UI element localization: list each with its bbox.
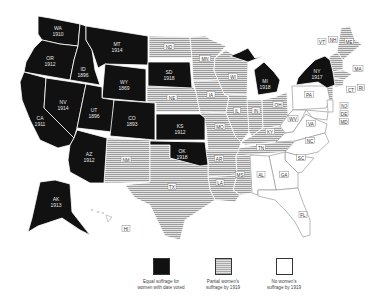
legend-swatch-white bbox=[276, 258, 293, 275]
label-md: MD bbox=[340, 119, 349, 125]
svg-text:ME: ME bbox=[346, 40, 353, 45]
svg-text:IN: IN bbox=[254, 109, 259, 114]
label-de: DE bbox=[340, 111, 348, 117]
label-ok-year: 1918 bbox=[176, 154, 187, 160]
legend-swatch-hatched bbox=[215, 258, 232, 275]
svg-text:SC: SC bbox=[298, 156, 305, 161]
state-pa[interactable] bbox=[292, 86, 330, 110]
svg-text:NE: NE bbox=[169, 96, 175, 101]
label-ky: KY bbox=[266, 129, 275, 135]
svg-text:AR: AR bbox=[216, 157, 223, 162]
label-ms: MS bbox=[236, 172, 245, 178]
label-nh: NH bbox=[329, 37, 338, 43]
label-pa: PA bbox=[305, 92, 314, 98]
label-ny-year: 1917 bbox=[311, 74, 322, 80]
label-tn: TN bbox=[257, 145, 266, 151]
state-ar[interactable] bbox=[204, 150, 239, 177]
map-legend: Equal suffrage for women with date voted… bbox=[0, 258, 382, 298]
label-al: AL bbox=[257, 172, 265, 178]
label-mn: MN bbox=[200, 56, 211, 62]
label-ma: MA bbox=[353, 66, 363, 72]
label-fl: FL bbox=[299, 212, 307, 218]
svg-text:NC: NC bbox=[307, 139, 314, 144]
label-wi: WI bbox=[229, 74, 238, 80]
svg-text:TX: TX bbox=[169, 185, 175, 190]
label-or-year: 1912 bbox=[44, 61, 55, 67]
label-ak-year: 1913 bbox=[50, 202, 61, 208]
svg-text:DE: DE bbox=[341, 112, 347, 117]
label-ct: CT bbox=[347, 87, 356, 93]
label-mi-year: 1918 bbox=[259, 84, 270, 90]
svg-text:KY: KY bbox=[267, 130, 273, 135]
label-wv: WV bbox=[288, 116, 298, 122]
label-mt-year: 1914 bbox=[111, 47, 122, 53]
label-ia: IA bbox=[207, 92, 215, 98]
svg-text:TN: TN bbox=[258, 146, 264, 151]
label-nj: NJ bbox=[340, 103, 348, 109]
svg-text:GA: GA bbox=[281, 173, 289, 178]
state-nj[interactable] bbox=[327, 100, 333, 112]
legend-label-line2: suffrage by 1919 bbox=[244, 285, 324, 291]
label-il: IL bbox=[234, 108, 241, 114]
label-nv-year: 1914 bbox=[57, 105, 68, 111]
hawaii-islands bbox=[91, 209, 112, 222]
svg-text:NJ: NJ bbox=[341, 104, 347, 109]
svg-text:NM: NM bbox=[122, 158, 129, 163]
svg-text:NH: NH bbox=[330, 38, 337, 43]
label-sc: SC bbox=[297, 155, 306, 161]
label-in: IN bbox=[252, 108, 260, 114]
svg-text:MS: MS bbox=[237, 173, 244, 178]
svg-text:MO: MO bbox=[216, 125, 224, 130]
svg-text:HI: HI bbox=[124, 227, 129, 232]
label-az-year: 1912 bbox=[83, 157, 94, 163]
label-wa-year: 1910 bbox=[52, 31, 63, 37]
label-nm: NM bbox=[121, 157, 131, 163]
label-vt: VT bbox=[318, 39, 326, 45]
label-me: ME bbox=[345, 39, 354, 45]
legend-item-no-suffrage: No women's suffrage by 1919 bbox=[244, 258, 324, 290]
svg-text:VA: VA bbox=[308, 122, 315, 127]
label-nc: NC bbox=[306, 138, 315, 144]
label-ne: NE bbox=[167, 95, 177, 101]
label-ga: GA bbox=[280, 172, 289, 178]
label-ks-year: 1912 bbox=[174, 129, 185, 135]
svg-text:CT: CT bbox=[348, 88, 354, 93]
svg-text:MN: MN bbox=[201, 57, 208, 62]
svg-text:AL: AL bbox=[258, 173, 264, 178]
svg-text:OH: OH bbox=[275, 103, 282, 108]
svg-text:PA: PA bbox=[306, 93, 313, 98]
label-sd-year: 1918 bbox=[163, 75, 174, 81]
svg-text:WI: WI bbox=[230, 75, 236, 80]
label-oh: OH bbox=[273, 102, 283, 108]
svg-text:VT: VT bbox=[319, 40, 325, 45]
svg-text:LA: LA bbox=[217, 181, 224, 186]
legend-swatch-black bbox=[153, 258, 170, 275]
label-ca-year: 1911 bbox=[35, 121, 46, 127]
svg-text:WV: WV bbox=[289, 117, 297, 122]
svg-text:IL: IL bbox=[235, 109, 239, 114]
us-suffrage-map: WA 1910 OR 1912 CA 1911 ID 1896 NV 1914 … bbox=[0, 0, 382, 250]
label-tx: TX bbox=[168, 184, 176, 190]
label-id-year: 1896 bbox=[77, 72, 88, 78]
label-la: LA bbox=[216, 180, 224, 186]
svg-text:ND: ND bbox=[166, 45, 173, 50]
svg-text:RI: RI bbox=[359, 86, 364, 91]
label-hi: HI bbox=[122, 226, 130, 232]
svg-text:MD: MD bbox=[340, 120, 348, 125]
label-wy-year: 1869 bbox=[118, 85, 129, 91]
label-co-year: 1893 bbox=[126, 121, 137, 127]
label-va: VA bbox=[307, 121, 316, 127]
label-ri: RI bbox=[358, 85, 365, 91]
label-mo: MO bbox=[215, 124, 225, 130]
svg-text:MA: MA bbox=[355, 67, 363, 72]
label-ar: AR bbox=[215, 156, 224, 162]
label-nd: ND bbox=[164, 44, 174, 50]
label-ut-year: 1896 bbox=[88, 113, 99, 119]
svg-text:FL: FL bbox=[300, 213, 306, 218]
